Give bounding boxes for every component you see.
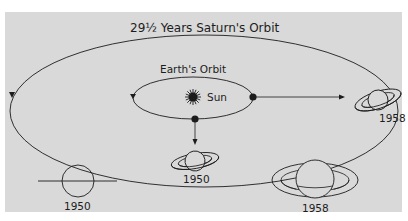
- earth-position-1958: [249, 93, 256, 100]
- earth-orbit-arrow-icon: [130, 94, 136, 99]
- sun-label: Sun: [207, 91, 227, 103]
- diagram-canvas: 29½ Years Saturn's Orbit Earth's Orbit S…: [0, 0, 408, 221]
- year-1958-orbit-label: 1958: [379, 112, 406, 124]
- year-1958-view-label: 1958: [302, 202, 329, 214]
- year-1950-view-label: 1950: [64, 200, 91, 212]
- saturn-1958-open-rings-icon: [272, 160, 358, 198]
- saturn-1950-edge-on-icon: [38, 165, 117, 197]
- saturn-1950-orbit-icon: [170, 147, 221, 175]
- year-1950-orbit-label: 1950: [183, 173, 210, 185]
- arrow-right-icon: [339, 95, 345, 100]
- saturn-orbit-title: 29½ Years Saturn's Orbit: [130, 21, 279, 35]
- sun-icon: [185, 89, 201, 105]
- earth-orbit-label: Earth's Orbit: [160, 63, 226, 75]
- arrow-down-icon: [193, 139, 198, 145]
- saturn-orbit-diagram: 29½ Years Saturn's Orbit Earth's Orbit S…: [0, 0, 408, 221]
- earth-position-1950: [191, 115, 198, 122]
